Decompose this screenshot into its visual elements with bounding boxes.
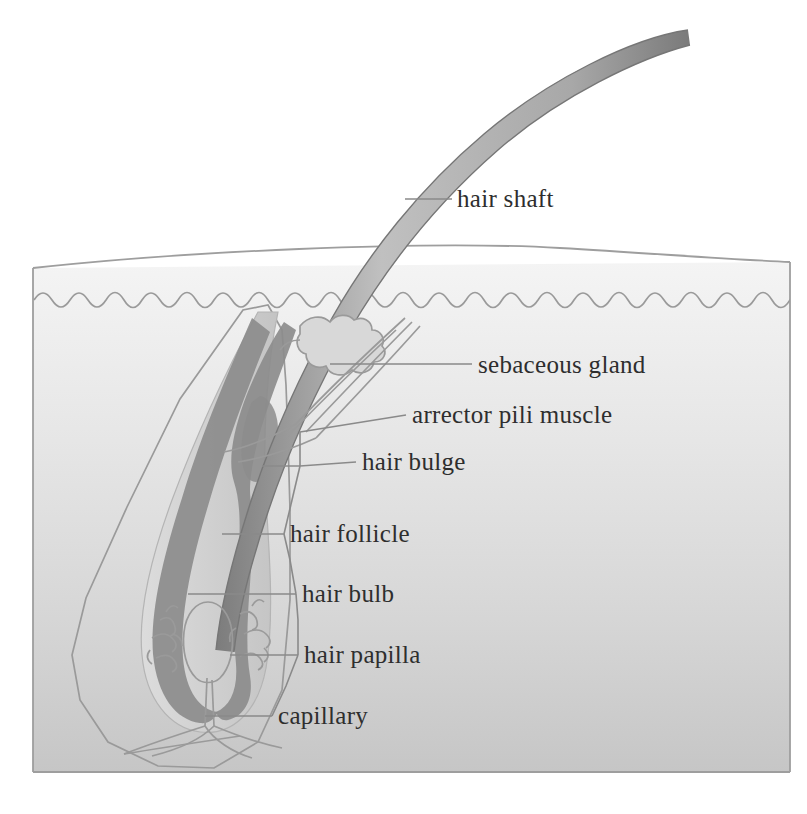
label-hair-bulge: hair bulge [362,448,466,475]
label-hair-follicle: hair follicle [290,520,410,547]
skin-fill [33,262,790,772]
label-hair-bulb: hair bulb [302,580,394,607]
label-sebaceous-gland: sebaceous gland [478,351,646,378]
label-capillary: capillary [278,702,368,729]
skin-block [33,245,790,772]
hair-follicle-diagram: hair shaft sebaceous gland arrector pili… [0,0,807,814]
diagram-canvas: hair shaft sebaceous gland arrector pili… [0,0,807,814]
label-hair-shaft: hair shaft [457,185,554,212]
label-arrector-pili-muscle: arrector pili muscle [412,401,612,428]
label-hair-papilla: hair papilla [304,641,421,668]
